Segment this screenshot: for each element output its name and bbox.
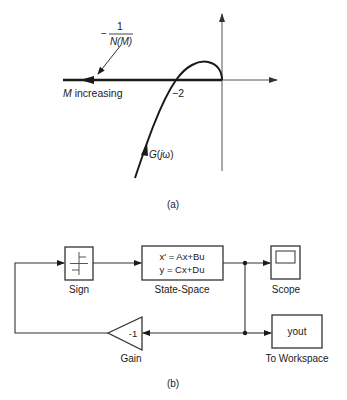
caption-a: (a) [167, 199, 179, 210]
branch-junction-top [243, 261, 247, 265]
state-space-eq1: x' = Ax+Bu [159, 251, 204, 262]
caption-b: (b) [167, 378, 179, 389]
to-workspace-variable: yout [288, 326, 307, 337]
m-increasing-label: M increasing [63, 87, 123, 99]
scope-label: Scope [272, 284, 301, 295]
neg-sign: − [101, 28, 107, 39]
leader-line [98, 45, 121, 74]
state-space-label: State-Space [154, 284, 209, 295]
branch-junction-bottom [243, 331, 247, 335]
nyquist-plot: − 1 N(M) M increasing −2 G(jω) [63, 14, 277, 178]
gain-value: -1 [129, 328, 137, 339]
fraction-numerator: 1 [117, 20, 123, 32]
figure-canvas: − 1 N(M) M increasing −2 G(jω) (a) Sign [0, 0, 347, 400]
scope-screen-icon [276, 251, 295, 263]
gain-label: Gain [120, 353, 141, 364]
crossing-value-label: −2 [172, 87, 184, 99]
state-space-block[interactable]: x' = Ax+Bu y = Cx+Du [142, 246, 223, 280]
sign-block[interactable] [65, 247, 93, 280]
state-space-eq2: y = Cx+Du [160, 264, 205, 275]
scope-block[interactable] [271, 246, 300, 279]
locus-direction-arrow-icon [80, 76, 94, 84]
gain-block[interactable]: -1 [108, 317, 142, 350]
g-jw-direction-arrow-icon [141, 142, 148, 156]
sign-label: Sign [69, 284, 89, 295]
fraction-denominator: N(M) [110, 36, 132, 47]
to-workspace-block[interactable]: yout [272, 315, 322, 348]
g-jw-label: G(jω) [149, 149, 174, 160]
simulink-block-diagram: Sign x' = Ax+Bu y = Cx+Du State-Space Sc… [15, 246, 329, 364]
to-workspace-label: To Workspace [265, 353, 329, 364]
signal-feedback-loop [15, 263, 108, 333]
